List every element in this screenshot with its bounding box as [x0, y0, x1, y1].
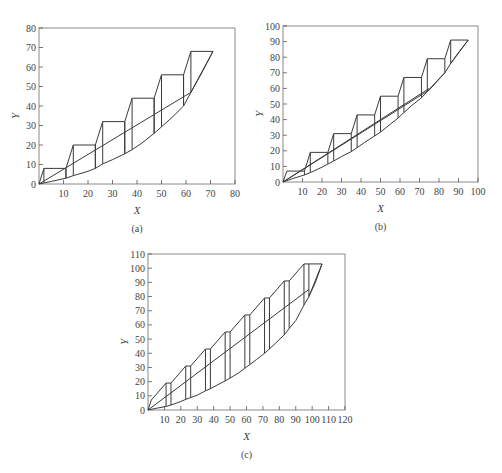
y-tick-label: 0: [275, 177, 280, 188]
x-tick-label: 30: [192, 414, 202, 425]
y-tick-label: 90: [135, 277, 145, 288]
chart-panel-c: 1020304050607080901001101200102030405060…: [118, 249, 353, 462]
y-tick-label: 110: [130, 249, 145, 260]
x-tick-label: 40: [356, 186, 366, 197]
plot-frame: [148, 254, 345, 410]
y-tick-label: 60: [26, 62, 36, 73]
y-tick-label: 70: [270, 67, 280, 78]
series-operating-line-2: [283, 73, 445, 182]
x-tick-label: 20: [176, 414, 186, 425]
x-tick-label: 90: [454, 186, 464, 197]
y-tick-label: 0: [31, 179, 36, 190]
y-tick-label: 80: [26, 23, 36, 34]
series-staircase: [39, 51, 213, 184]
panel-label: (a): [131, 223, 142, 235]
x-tick-label: 10: [298, 186, 308, 197]
y-tick-label: 40: [135, 348, 145, 359]
y-tick-label: 40: [26, 101, 36, 112]
y-tick-label: 100: [130, 263, 145, 274]
y-tick-label: 80: [270, 52, 280, 63]
chart-panel-a: 102030405060708001020304050607080XY(a): [9, 23, 240, 236]
y-tick-label: 20: [135, 376, 145, 387]
y-tick-label: 60: [270, 83, 280, 94]
chart-panel-b: 1020304050607080901000102030405060708090…: [253, 21, 486, 234]
x-tick-label: 60: [395, 186, 405, 197]
x-tick-label: 90: [291, 414, 301, 425]
x-tick-label: 10: [159, 414, 169, 425]
x-tick-label: 80: [230, 188, 240, 199]
figure: 102030405060708001020304050607080XY(a) 1…: [0, 0, 502, 473]
series-upper-envelope: [148, 264, 322, 410]
y-axis-title: Y: [253, 109, 265, 117]
y-tick-label: 10: [135, 390, 145, 401]
x-axis-title: X: [133, 204, 142, 216]
panel-label: (c): [241, 449, 252, 461]
series-operating-line: [39, 92, 191, 184]
x-tick-label: 30: [337, 186, 347, 197]
series-operating-line: [148, 289, 309, 410]
x-tick-label: 60: [242, 414, 252, 425]
x-axis-title: X: [376, 202, 385, 214]
y-tick-label: 50: [270, 99, 280, 110]
y-tick-label: 0: [140, 405, 145, 416]
x-tick-label: 40: [209, 414, 219, 425]
x-tick-label: 70: [415, 186, 425, 197]
x-tick-label: 80: [274, 414, 284, 425]
series-lower-curve: [148, 264, 322, 410]
y-tick-label: 30: [26, 120, 36, 131]
x-tick-label: 30: [108, 188, 118, 199]
y-tick-label: 10: [270, 161, 280, 172]
x-axis-title: X: [242, 430, 251, 442]
y-tick-label: 50: [26, 81, 36, 92]
panel-label: (b): [375, 221, 387, 233]
x-tick-label: 100: [471, 186, 486, 197]
y-tick-label: 20: [270, 145, 280, 156]
x-tick-label: 60: [181, 188, 191, 199]
y-tick-label: 60: [135, 319, 145, 330]
x-tick-label: 70: [258, 414, 268, 425]
x-tick-label: 50: [376, 186, 386, 197]
x-tick-label: 80: [434, 186, 444, 197]
x-tick-label: 20: [317, 186, 327, 197]
y-tick-label: 70: [135, 305, 145, 316]
y-tick-label: 40: [270, 114, 280, 125]
y-tick-label: 50: [135, 334, 145, 345]
y-tick-label: 30: [135, 362, 145, 373]
x-tick-label: 100: [305, 414, 320, 425]
y-tick-label: 100: [265, 21, 280, 32]
x-tick-label: 10: [59, 188, 69, 199]
x-tick-label: 70: [206, 188, 216, 199]
x-tick-label: 40: [132, 188, 142, 199]
x-tick-label: 50: [225, 414, 235, 425]
y-tick-label: 80: [135, 291, 145, 302]
y-tick-label: 10: [26, 159, 36, 170]
x-tick-label: 20: [83, 188, 93, 199]
y-tick-label: 70: [26, 42, 36, 53]
y-tick-label: 20: [26, 140, 36, 151]
x-tick-label: 50: [157, 188, 167, 199]
y-tick-label: 90: [270, 36, 280, 47]
y-axis-title: Y: [118, 337, 130, 345]
y-tick-label: 30: [270, 130, 280, 141]
y-axis-title: Y: [9, 111, 21, 119]
x-tick-label: 120: [338, 414, 353, 425]
x-tick-label: 110: [321, 414, 336, 425]
